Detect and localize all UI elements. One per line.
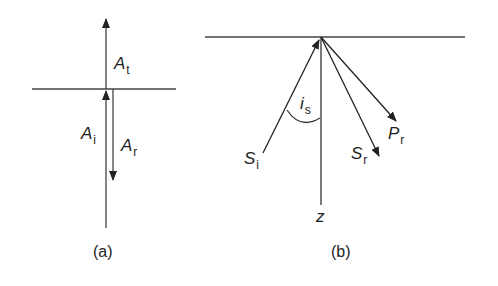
- label-incident-s-main: S: [244, 149, 255, 168]
- label-reflected-p-main: P: [388, 124, 399, 143]
- panel-b-lines: [205, 37, 465, 205]
- reflected-p-arrow: [321, 37, 396, 121]
- label-incident-main: A: [81, 124, 92, 143]
- label-reflected: Ar: [121, 137, 137, 154]
- label-transmitted-main: A: [114, 54, 125, 73]
- caption-b: (b): [331, 244, 351, 260]
- wave-reflection-figure: At Ai Ar (a) Si Sr Pr is z (b): [0, 0, 498, 286]
- label-incident: Ai: [81, 125, 96, 142]
- label-reflected-sub: r: [133, 145, 137, 159]
- reflected-s-arrow: [321, 37, 379, 156]
- label-incident-sub: i: [93, 133, 96, 147]
- label-incident-s: Si: [244, 150, 259, 167]
- label-reflected-s-main: S: [351, 144, 362, 163]
- label-incidence-angle: is: [300, 95, 311, 112]
- label-incidence-angle-sub: s: [305, 103, 311, 117]
- caption-a: (a): [93, 244, 113, 260]
- label-transmitted-sub: t: [126, 63, 129, 77]
- label-incident-s-sub: i: [256, 158, 259, 172]
- label-reflected-s-sub: r: [363, 153, 367, 167]
- diagram-lines: [0, 0, 498, 286]
- label-transmitted: At: [114, 55, 130, 72]
- panel-a-lines: [32, 19, 176, 228]
- label-reflected-s: Sr: [351, 145, 367, 162]
- label-incidence-angle-main: i: [300, 94, 304, 113]
- label-z-axis: z: [316, 208, 325, 225]
- label-reflected-p-sub: r: [400, 133, 404, 147]
- label-reflected-p: Pr: [388, 125, 404, 142]
- label-reflected-main: A: [121, 136, 132, 155]
